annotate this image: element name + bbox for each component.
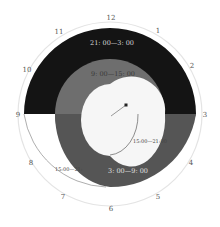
clock-number-1: 1 [156, 27, 160, 35]
clock-number-6: 6 [109, 205, 114, 213]
label-night: 21: 00—3: 00 [90, 39, 134, 47]
clock-svg: 21: 00—3: 00 9: 00—15: 00 3: 00—9: 00 15… [0, 0, 220, 227]
label-evening-inner: 15:00—21:00 [133, 138, 167, 144]
clock-number-2: 2 [190, 62, 194, 70]
label-evening-outer: 15:00—21: [55, 166, 83, 172]
clock-number-8: 8 [29, 159, 33, 167]
clock-number-9: 9 [16, 111, 20, 119]
clock-number-4: 4 [189, 159, 194, 167]
hand-tip-icon [125, 104, 128, 107]
clock-number-3: 3 [203, 111, 207, 119]
clock-number-12: 12 [107, 14, 116, 22]
label-morning: 3: 00—9: 00 [108, 167, 148, 175]
clock-number-10: 10 [23, 66, 32, 74]
clock-number-11: 11 [55, 28, 64, 36]
clock-diagram: 21: 00—3: 00 9: 00—15: 00 3: 00—9: 00 15… [0, 0, 220, 227]
clock-number-7: 7 [61, 193, 65, 201]
clock-number-5: 5 [156, 193, 160, 201]
label-day: 9: 00—15: 00 [91, 70, 135, 78]
